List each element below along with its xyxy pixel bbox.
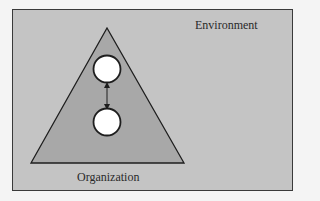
lower-node-circle: [94, 109, 121, 136]
organization-label: Organization: [77, 170, 139, 185]
upper-node-circle: [94, 56, 121, 83]
environment-label: Environment: [195, 18, 258, 33]
